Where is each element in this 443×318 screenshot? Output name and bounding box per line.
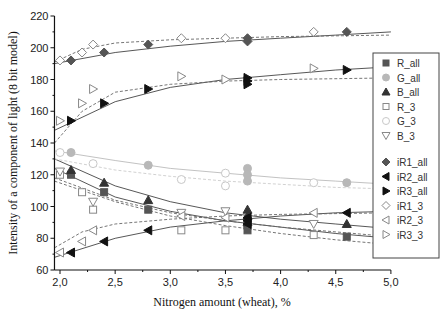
y-axis-title: Intensity of a component of light (8 bit… — [6, 31, 20, 254]
data-point — [101, 189, 108, 196]
legend-label: B_all — [397, 87, 419, 98]
x-tick-label: 2,0 — [52, 276, 67, 288]
data-point — [79, 189, 86, 196]
data-point — [310, 232, 317, 239]
data-point — [78, 48, 87, 57]
y-tick-label: 120 — [30, 169, 48, 181]
scatter-chart: 60801001201401601802002202,02,53,03,54,0… — [0, 0, 443, 318]
legend-marker-icon — [383, 104, 389, 110]
y-tick-label: 100 — [30, 201, 48, 213]
data-point — [309, 220, 318, 228]
data-point — [89, 160, 97, 168]
fit-curve-ir3-3 — [55, 78, 391, 143]
series-ir2-3 — [56, 208, 318, 257]
x-tick-label: 4,5 — [328, 276, 343, 288]
data-point — [67, 56, 76, 65]
legend: R_allG_allB_allR_3G_3B_3iR1_alliR2_alliR… — [373, 53, 439, 258]
data-point — [178, 72, 186, 81]
series-ir1-all — [67, 27, 352, 65]
data-point — [89, 226, 97, 235]
data-point — [222, 75, 230, 84]
data-point — [343, 65, 351, 74]
legend-label: iR1_3 — [397, 201, 424, 212]
data-point — [343, 179, 351, 187]
data-point — [79, 99, 87, 108]
series-ir3-3 — [57, 64, 319, 125]
legend-label: iR2_3 — [397, 215, 424, 226]
legend-label: iR3_all — [397, 186, 428, 197]
data-point — [56, 149, 64, 157]
data-point — [221, 182, 229, 190]
legend-label: B_3 — [397, 131, 415, 142]
legend-label: iR2_all — [397, 172, 428, 183]
data-point — [100, 237, 108, 246]
series-g-all — [67, 149, 351, 187]
legend-marker-icon — [383, 74, 390, 81]
data-point — [144, 161, 152, 169]
legend-label: iR3_3 — [397, 230, 424, 241]
data-points — [56, 27, 352, 257]
data-point — [78, 237, 86, 246]
data-point — [67, 165, 76, 173]
y-tick-label: 200 — [30, 42, 48, 54]
series-g-3 — [56, 149, 318, 190]
y-tick-label: 220 — [30, 10, 48, 22]
data-point — [144, 196, 153, 204]
data-point — [343, 233, 350, 240]
series-ir2-all — [67, 208, 351, 257]
legend-label: R_all — [397, 58, 420, 69]
data-point — [342, 219, 351, 227]
y-tick-label: 80 — [36, 232, 48, 244]
data-point — [177, 176, 185, 184]
y-tick-label: 140 — [30, 137, 48, 149]
y-tick-label: 180 — [30, 74, 48, 86]
data-point — [67, 149, 75, 157]
data-point — [222, 227, 229, 234]
data-point — [178, 227, 185, 234]
data-point — [309, 208, 317, 217]
data-point — [90, 85, 98, 94]
legend-marker-icon — [383, 118, 390, 125]
legend-box — [373, 53, 439, 258]
x-tick-label: 3,5 — [218, 276, 233, 288]
data-point — [144, 40, 153, 49]
series-ir3-all — [68, 65, 352, 125]
legend-label: G_all — [397, 73, 420, 84]
data-point — [145, 206, 152, 213]
data-point — [89, 198, 98, 206]
legend-label: G_3 — [397, 116, 416, 127]
legend-item-ir2-all: iR2_all — [382, 172, 428, 183]
x-tick-label: 5,0 — [383, 276, 398, 288]
data-point — [144, 226, 152, 235]
data-point — [244, 177, 252, 185]
data-point — [89, 40, 98, 49]
data-point — [57, 116, 65, 125]
x-tick-label: 2,5 — [108, 276, 123, 288]
x-tick-label: 3,0 — [163, 276, 178, 288]
data-point — [67, 248, 75, 257]
series-ir1-3 — [56, 27, 319, 65]
fit-curves — [55, 32, 391, 257]
y-tick-label: 160 — [30, 105, 48, 117]
data-point — [309, 27, 318, 36]
data-point — [342, 208, 350, 217]
y-tick-label: 60 — [36, 264, 48, 276]
data-point — [310, 179, 318, 187]
x-tick-label: 4,0 — [273, 276, 288, 288]
x-axis-title: Nitrogen amount (wheat), % — [153, 295, 290, 309]
data-point — [177, 34, 186, 43]
data-point — [100, 48, 109, 57]
legend-label: R_3 — [397, 102, 416, 113]
legend-label: iR1_all — [397, 157, 428, 168]
data-point — [221, 169, 229, 177]
legend-marker-icon — [383, 60, 389, 66]
